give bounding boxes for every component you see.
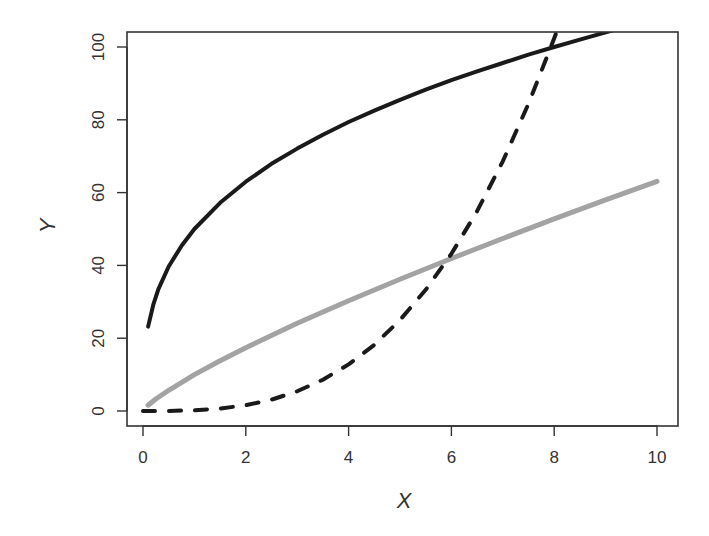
y-tick-label: 60 [89,183,108,202]
x-tick-label: 8 [549,448,558,467]
x-tick-label: 6 [447,448,456,467]
x-tick-label: 0 [138,448,147,467]
x-axis-title: X [396,488,413,513]
line-chart: 0246810 020406080100 X Y [0,0,709,536]
x-tick-label: 4 [344,448,353,467]
y-axis-title: Y [35,217,60,233]
y-tick-label: 100 [89,33,108,61]
y-tick-label: 80 [89,110,108,129]
y-tick-label: 40 [89,256,108,275]
x-tick-label: 2 [241,448,250,467]
y-tick-label: 20 [89,329,108,348]
y-tick-label: 0 [89,406,108,415]
x-tick-label: 10 [648,448,667,467]
